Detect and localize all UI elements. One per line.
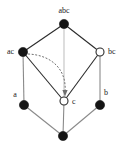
node-label-abc: abc <box>58 6 70 15</box>
edge-ac-c <box>23 52 64 101</box>
node-label-a: a <box>13 90 17 99</box>
edge-abc-bc <box>64 24 100 52</box>
edge-a-bottom <box>24 105 63 136</box>
node-label-bc: bc <box>108 47 116 56</box>
node-bottom[interactable] <box>58 131 67 140</box>
node-ac[interactable] <box>18 47 27 56</box>
dashed-arrow-path <box>28 54 65 92</box>
node-label-ac: ac <box>7 47 15 56</box>
edge-layer <box>23 24 100 136</box>
hasse-diagram: abc ac bc a c b <box>0 0 125 154</box>
dashed-arrowhead-icon <box>62 90 67 97</box>
edge-abc-ac <box>23 24 64 52</box>
node-label-b: b <box>104 88 108 97</box>
node-a[interactable] <box>19 100 28 109</box>
edge-c-bottom <box>63 101 64 136</box>
node-c[interactable] <box>60 97 68 105</box>
edge-bc-c <box>64 52 100 101</box>
node-bc[interactable] <box>96 48 104 56</box>
dashed-arrow-ac-to-c <box>28 54 68 97</box>
node-abc[interactable] <box>59 19 68 28</box>
node-label-c: c <box>72 97 76 106</box>
lattice-svg: abc ac bc a c b <box>0 0 125 154</box>
edge-ac-a <box>23 52 24 105</box>
node-layer <box>18 19 104 140</box>
node-b[interactable] <box>95 100 104 109</box>
edge-b-bottom <box>63 105 100 136</box>
